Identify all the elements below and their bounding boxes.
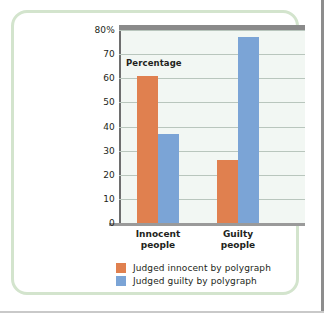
bar[interactable] — [158, 134, 179, 223]
y-tick-label: 10 — [103, 194, 115, 204]
x-axis-line — [109, 223, 305, 226]
legend-item[interactable]: Judged guilty by polygraph — [116, 276, 271, 286]
bar[interactable] — [217, 160, 238, 223]
y-tick-label: 30 — [103, 146, 115, 156]
legend-label: Judged innocent by polygraph — [133, 263, 271, 273]
category-label-line: people — [113, 240, 203, 251]
y-tick-label: 0 — [109, 218, 115, 228]
figure-frame: 80%706050403020100 Percentage Innocentpe… — [11, 10, 299, 295]
category-label: Innocentpeople — [113, 229, 203, 251]
bar[interactable] — [137, 76, 158, 223]
bar-group — [217, 30, 259, 223]
screenshot-page: 80%706050403020100 Percentage Innocentpe… — [0, 0, 324, 313]
bar-chart: 80%706050403020100 Percentage Innocentpe… — [109, 25, 305, 237]
legend-label: Judged guilty by polygraph — [133, 276, 257, 286]
category-label: Guiltypeople — [193, 229, 283, 251]
legend-item[interactable]: Judged innocent by polygraph — [116, 263, 271, 273]
y-tick-label: 20 — [103, 170, 115, 180]
category-label-line: people — [193, 240, 283, 251]
y-tick-label: 60 — [103, 73, 115, 83]
bar[interactable] — [238, 37, 259, 223]
chart-legend: Judged innocent by polygraphJudged guilt… — [116, 263, 271, 289]
legend-swatch — [116, 276, 126, 286]
y-tick-label: 50 — [103, 97, 115, 107]
y-tick-label: 70 — [103, 49, 115, 59]
y-tick-label: 40 — [103, 122, 115, 132]
y-tick-label: 80% — [94, 25, 115, 35]
bar-group — [137, 30, 179, 223]
category-label-line: Guilty — [193, 229, 283, 240]
legend-swatch — [116, 263, 126, 273]
category-label-line: Innocent — [113, 229, 203, 240]
